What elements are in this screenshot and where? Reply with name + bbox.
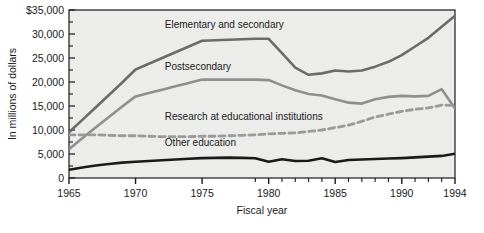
- series-inline-label: Research at educational institutions: [165, 111, 323, 122]
- series-inline-label: Other education: [165, 137, 236, 148]
- y-tick-label: 20,000: [32, 76, 64, 88]
- x-tick-label: 1980: [257, 187, 281, 199]
- y-axis-title: In millions of dollars: [6, 48, 18, 140]
- y-tick-label: $35,000: [26, 4, 64, 16]
- y-tick-label: 0: [58, 172, 64, 184]
- chart-figure: 05,00010,00015,00020,00025,00030,000$35,…: [0, 0, 484, 233]
- line-chart: 05,00010,00015,00020,00025,00030,000$35,…: [0, 0, 484, 233]
- x-tick-label: 1970: [124, 187, 148, 199]
- plot-area-background: [69, 10, 455, 178]
- y-tick-label: 10,000: [32, 124, 64, 136]
- y-tick-label: 15,000: [32, 100, 64, 112]
- y-tick-label: 25,000: [32, 52, 64, 64]
- series-inline-label: Postsecondary: [165, 61, 231, 72]
- x-tick-label: 1990: [390, 187, 414, 199]
- y-tick-label: 30,000: [32, 28, 64, 40]
- x-axis-title: Fiscal year: [237, 204, 288, 216]
- series-inline-label: Elementary and secondary: [165, 19, 284, 30]
- y-tick-label: 5,000: [38, 148, 64, 160]
- x-tick-label: 1994: [443, 187, 467, 199]
- x-tick-label: 1985: [324, 187, 348, 199]
- x-tick-label: 1975: [190, 187, 214, 199]
- x-tick-label: 1965: [57, 187, 81, 199]
